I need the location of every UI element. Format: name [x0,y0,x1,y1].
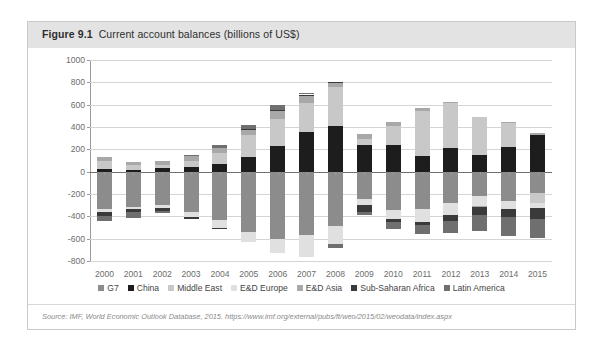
bar-segment [184,172,199,212]
bar-segment [443,221,458,233]
y-axis-tick-mark [87,105,90,106]
y-axis-tick-mark [87,194,90,195]
bar-segment [155,165,170,167]
legend-item[interactable]: E&D Europe [231,283,288,293]
bar-segment [501,122,516,123]
bar-segment [328,126,343,172]
bar-segment [501,201,516,209]
bar-segment [328,83,343,87]
y-axis-tick-label: -200 [68,189,85,199]
bar-segment [299,172,314,236]
bar-segment [501,172,516,201]
bar-segment [299,93,314,94]
bar-segment [270,105,285,110]
bar-group [299,60,314,261]
bar-segment [212,220,227,228]
legend-swatch-icon [168,285,174,291]
bar-segment [472,172,487,196]
x-axis-tick-mark [451,172,452,175]
x-axis-tick-mark [335,172,336,175]
legend-label: G7 [107,283,118,293]
bar-group [386,60,401,261]
x-axis-tick-label: 2013 [470,269,489,279]
bar-segment [357,212,372,215]
source-note: Source: IMF, World Economic Outlook Data… [42,312,452,321]
x-axis-tick-label: 2004 [210,269,229,279]
bar-segment [328,82,343,83]
legend-item[interactable]: China [128,283,159,293]
bar-group [443,60,458,261]
bar-segment [472,215,487,232]
bar-segment [472,196,487,207]
bar-segment [386,172,401,210]
bar-group [415,60,430,261]
legend-item[interactable]: G7 [98,283,118,293]
x-axis-tick-label: 2008 [326,269,345,279]
y-axis-tick-mark [87,216,90,217]
bar-segment [299,95,314,96]
bar-segment [443,103,458,148]
chart-area: 10008006004002000-200-400-600-800 200020… [28,48,575,306]
y-axis-tick-label: 0 [80,167,85,177]
page-title: Figure 9.1 Current account balances (bil… [42,28,300,40]
figure-number: Figure 9.1 [42,28,93,40]
legend-swatch-icon [297,285,303,291]
legend-swatch-icon [351,285,357,291]
y-axis-tick-mark [87,239,90,240]
legend-item[interactable]: E&D Asia [297,283,342,293]
x-axis-tick-label: 2009 [355,269,374,279]
x-axis-tick-mark [162,172,163,175]
y-axis-tick-mark [87,149,90,150]
bar-segment [357,172,372,199]
bar-segment [184,217,199,219]
chart-legend: G7ChinaMiddle EastE&D EuropeE&D AsiaSub-… [28,280,575,296]
x-axis-tick-label: 2011 [413,269,431,279]
legend-label: Latin America [453,283,505,293]
x-axis-tick-mark [480,172,481,175]
bar-segment [241,129,256,135]
x-axis-tick-label: 2002 [153,269,172,279]
bar-segment [386,126,401,145]
y-axis-tick-label: -600 [68,234,85,244]
legend-label: E&D Europe [240,283,288,293]
figure-title-bar: Figure 9.1 Current account balances (bil… [28,22,575,48]
bar-segment [212,153,227,164]
bar-group [126,60,141,261]
bar-segment [530,208,545,219]
plot-canvas: 10008006004002000-200-400-600-800 200020… [90,60,552,261]
legend-item[interactable]: Latin America [444,283,505,293]
bar-segment [328,172,343,227]
x-axis-tick-mark [307,172,308,175]
bar-segment [443,203,458,214]
x-axis-tick-label: 2007 [297,269,316,279]
bar-segment [415,156,430,171]
x-axis-tick-label: 2000 [95,269,114,279]
bar-segment [126,172,141,207]
bar-segment [328,226,343,244]
bar-segment [155,172,170,206]
bar-segment [530,193,545,203]
legend-item[interactable]: Sub-Saharan Africa [351,283,435,293]
bar-segment [270,119,285,146]
y-axis-tick-mark [87,82,90,83]
bar-segment [212,228,227,229]
bar-segment [530,133,545,135]
bar-segment [212,164,227,172]
bar-segment [97,161,112,169]
bar-segment [299,95,314,103]
bar-segment [443,148,458,172]
bar-segment [386,145,401,172]
bar-group [472,60,487,261]
bar-segment [501,217,516,237]
legend-item[interactable]: Middle East [168,283,222,293]
legend-swatch-icon [98,285,104,291]
bar-group [241,60,256,261]
legend-label: Middle East [177,283,222,293]
bar-segment [212,148,227,153]
bar-group [357,60,372,261]
bar-segment [126,212,141,218]
x-axis-tick-label: 2003 [182,269,201,279]
bar-segment [299,132,314,171]
figure-caption: Current account balances (billions of US… [99,28,300,40]
bar-segment [155,161,170,165]
